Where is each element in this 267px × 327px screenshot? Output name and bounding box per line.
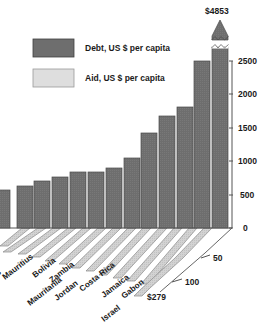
- legend-swatch-debt: [33, 39, 74, 57]
- debt-bar-israel-broken: [212, 20, 229, 228]
- legend-swatch-aid: [33, 69, 74, 87]
- y-tick-1000: 1000: [238, 156, 257, 166]
- debt-bar: [52, 177, 68, 228]
- y-tick-2000: 2000: [238, 89, 257, 99]
- legend-label-debt: Debt, US $ per capita: [85, 43, 170, 53]
- bar-chart-svg: 2500 2000 1500 1000 500 0 50 100 s Mauri…: [0, 0, 267, 327]
- y-tick-0: 0: [243, 223, 248, 233]
- annotation-top-value: $4853: [205, 6, 229, 16]
- debt-bar: [106, 168, 122, 228]
- y-tick-1500: 1500: [238, 123, 257, 133]
- debt-bar: [0, 190, 10, 228]
- debt-bar: [159, 116, 175, 228]
- debt-bar: [177, 107, 193, 228]
- depth-tick-100: 100: [185, 277, 199, 287]
- annotation-aid-value: $279: [147, 292, 166, 302]
- debt-bar: [88, 172, 104, 228]
- debt-bar: [194, 61, 210, 228]
- debt-bar: [17, 186, 33, 228]
- legend-label-aid: Aid, US $ per capita: [85, 73, 165, 83]
- debt-bar: [124, 158, 140, 228]
- depth-tick-50: 50: [213, 253, 223, 263]
- debt-bar: [34, 181, 50, 228]
- debt-bar: [141, 133, 157, 228]
- y-tick-500: 500: [240, 190, 254, 200]
- y-tick-2500: 2500: [238, 56, 257, 66]
- debt-bar: [70, 172, 86, 228]
- chart-container: 2500 2000 1500 1000 500 0 50 100 s Mauri…: [0, 0, 267, 327]
